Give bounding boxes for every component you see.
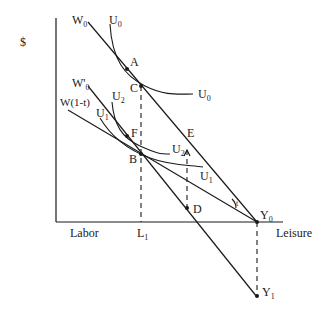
u0-indifference-curve bbox=[110, 24, 193, 94]
point-f bbox=[125, 134, 129, 138]
u1-top-label: U1 bbox=[96, 106, 109, 122]
w-after-tax-label: W(1-t) bbox=[60, 96, 90, 109]
u0-right-label: U0 bbox=[198, 87, 211, 103]
point-a-label: A bbox=[130, 55, 139, 69]
u2-right-label: U2 bbox=[172, 142, 185, 158]
point-b bbox=[139, 152, 143, 156]
point-c bbox=[139, 84, 143, 88]
point-e-label: E bbox=[187, 126, 194, 140]
x-axis-leisure-label: Leisure bbox=[276, 226, 312, 240]
x-axis-labor-label: Labor bbox=[70, 226, 99, 240]
point-y1 bbox=[255, 294, 259, 298]
point-y1-label: Y1 bbox=[262, 285, 275, 301]
point-d-label: D bbox=[193, 202, 202, 216]
point-d bbox=[185, 206, 189, 210]
u0-top-label: U0 bbox=[109, 13, 122, 29]
w0-label: W0 bbox=[72, 13, 87, 29]
point-c-label: C bbox=[130, 81, 138, 95]
labor-leisure-diagram: $ Labor Leisure t W0 W'0 W(1-t) U0 U0 U2… bbox=[0, 0, 333, 315]
l1-label: L1 bbox=[137, 226, 148, 242]
u1-right-label: U1 bbox=[200, 169, 213, 185]
point-b-label: B bbox=[129, 152, 137, 166]
point-a bbox=[125, 67, 129, 71]
w0-prime-label: W'0 bbox=[72, 76, 90, 92]
y-axis-label: $ bbox=[20, 35, 26, 49]
point-y0 bbox=[255, 220, 259, 224]
point-y0-label: Y0 bbox=[260, 208, 273, 224]
u2-top-label: U2 bbox=[112, 89, 125, 105]
u2-indifference-curve bbox=[112, 102, 170, 154]
point-f-label: F bbox=[131, 126, 138, 140]
w-after-tax-budget-line bbox=[68, 110, 257, 222]
